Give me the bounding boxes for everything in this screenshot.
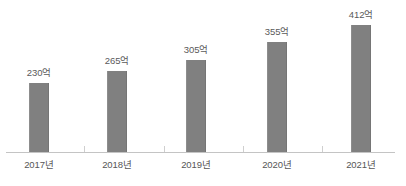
- bar-2021[interactable]: [351, 25, 371, 153]
- bar-value-label: 355억: [265, 27, 289, 37]
- bar-2019[interactable]: [186, 60, 206, 153]
- bar-2018[interactable]: [107, 71, 127, 153]
- axis-tick: [164, 146, 165, 152]
- plot-area: 230억 265억 305억 355억 412억: [0, 0, 406, 153]
- bar-2017[interactable]: [29, 83, 49, 153]
- category-label-2017: 2017년: [0, 158, 78, 172]
- category-label-2020: 2020년: [238, 158, 316, 172]
- category-label-2019: 2019년: [157, 158, 235, 172]
- bar-group-2020: 355억: [238, 0, 316, 153]
- category-label-2021: 2021년: [322, 158, 400, 172]
- bar-value-label: 265억: [105, 56, 129, 66]
- x-axis-labels: 2017년 2018년 2019년 2020년 2021년: [0, 158, 406, 178]
- bar-group-2018: 265억: [78, 0, 156, 153]
- axis-tick: [84, 146, 85, 152]
- bar-value-label: 412억: [349, 10, 373, 20]
- axis-tick: [243, 146, 244, 152]
- bar-value-label: 230억: [27, 68, 51, 78]
- x-axis-line: [6, 152, 395, 153]
- bar-2020[interactable]: [267, 42, 287, 153]
- bar-value-label: 305억: [184, 45, 208, 55]
- bar-group-2019: 305억: [157, 0, 235, 153]
- bar-group-2021: 412억: [322, 0, 400, 153]
- category-label-2018: 2018년: [78, 158, 156, 172]
- bar-group-2017: 230억: [0, 0, 78, 153]
- axis-tick: [322, 146, 323, 152]
- bar-chart: 230억 265억 305억 355억 412억 2017년 2018년 201…: [0, 0, 406, 186]
